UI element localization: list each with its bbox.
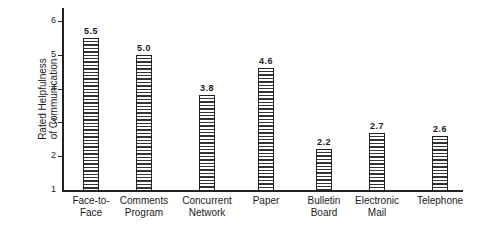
y-tick-label: 1 (44, 184, 56, 194)
y-tick-label: 4 (44, 83, 56, 93)
x-category-label: Telephone (405, 195, 475, 219)
y-axis-line (62, 8, 64, 191)
bar-value-label: 5.5 (71, 26, 111, 36)
x-category-label: ElectronicMail (342, 195, 412, 219)
bar (369, 133, 385, 191)
bar (432, 136, 448, 191)
y-tick (58, 55, 63, 56)
bar-value-label: 2.2 (304, 137, 344, 147)
bar-value-label: 2.6 (420, 124, 460, 134)
y-tick (58, 89, 63, 90)
bar-value-label: 2.7 (357, 121, 397, 131)
x-category-label: CommentsProgram (109, 195, 179, 219)
y-tick (58, 122, 63, 123)
bar (316, 149, 332, 191)
y-tick-label: 6 (44, 15, 56, 25)
y-tick-label: 3 (44, 116, 56, 126)
bar (199, 95, 215, 191)
y-tick (58, 21, 63, 22)
bar-value-label: 3.8 (187, 83, 227, 93)
y-tick-label: 5 (44, 49, 56, 59)
bar (83, 38, 99, 191)
bar (258, 68, 274, 191)
y-tick (58, 156, 63, 157)
bar-value-label: 4.6 (246, 56, 286, 66)
y-tick-label: 2 (44, 150, 56, 160)
bar (136, 55, 152, 191)
bar-value-label: 5.0 (124, 43, 164, 53)
bar-chart: Rated Helpfulness of Communication 12345… (0, 0, 482, 231)
